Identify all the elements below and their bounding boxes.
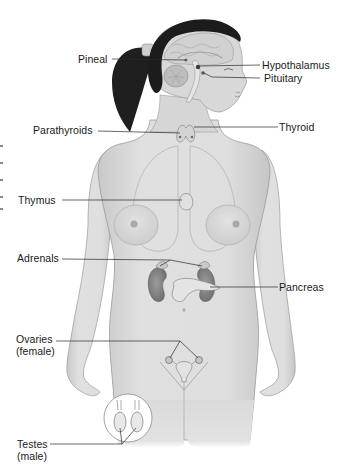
hypothalamus-gland [196, 65, 200, 69]
label-testes: Testes (male) [17, 438, 48, 462]
edge-mark [0, 208, 3, 210]
testes-inset [104, 394, 152, 442]
thymus-gland [179, 194, 192, 211]
right-ovary [196, 357, 203, 364]
edge-mark [0, 145, 3, 147]
label-pineal: Pineal [78, 53, 108, 65]
label-pituitary: Pituitary [264, 72, 302, 84]
label-hypothalamus: Hypothalamus [262, 59, 330, 71]
right-testis [131, 412, 143, 432]
right-breast [206, 205, 250, 245]
label-thyroid: Thyroid [279, 121, 314, 133]
label-thymus: Thymus [18, 194, 56, 206]
label-adrenals: Adrenals [17, 252, 59, 264]
edge-mark [0, 179, 3, 181]
left-ovary [166, 357, 173, 364]
label-pancreas: Pancreas [279, 281, 324, 293]
edge-mark [0, 162, 3, 164]
label-ovaries: Ovaries (female) [16, 333, 55, 357]
ponytail [112, 47, 151, 132]
edge-mark [0, 196, 3, 198]
body-silhouette [67, 95, 295, 448]
label-parathyroids: Parathyroids [33, 124, 93, 136]
